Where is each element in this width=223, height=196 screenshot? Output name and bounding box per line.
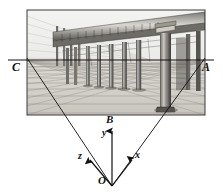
z-axis-label: z [78,151,82,161]
vanishing-point-label-c: C [12,61,20,73]
origin-label-o: O [98,175,106,186]
perspective-figure: C A B y z x O [0,0,223,196]
projection-ray-right [112,58,205,186]
apex-label-b: B [106,114,113,125]
y-axis-label: y [102,128,106,138]
geometry-layer [0,0,223,196]
x-axis-label: x [135,150,140,160]
x-axis [112,160,132,186]
vanishing-point-label-a: A [202,61,210,73]
projection-ray-left [27,58,112,186]
